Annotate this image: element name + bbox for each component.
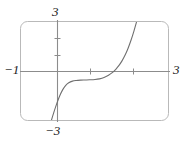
graph-figure: 3 −3 −1 3 bbox=[0, 0, 185, 141]
y-axis-max-label: 3 bbox=[52, 5, 59, 18]
x-axis-min-label: −1 bbox=[4, 63, 19, 76]
plot-canvas bbox=[0, 0, 185, 141]
x-axis-max-label: 3 bbox=[173, 63, 180, 76]
y-axis-min-label: −3 bbox=[45, 124, 60, 137]
